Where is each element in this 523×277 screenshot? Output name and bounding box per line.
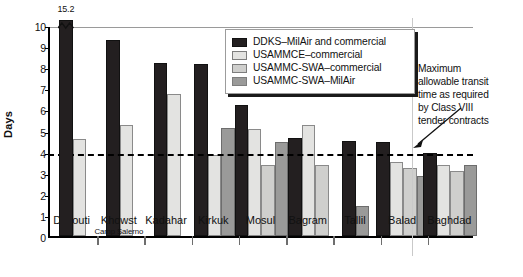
x-axis-label-kadahar: Kadahar — [145, 214, 187, 226]
x-axis-separator-tick — [144, 236, 146, 245]
y-axis-tick-label: 0 — [30, 233, 46, 244]
legend-item: USAMMC-SWA–MilAir — [232, 75, 407, 87]
legend-swatch-icon — [232, 77, 247, 86]
threshold-annotation: Maximum allowable transit time as requir… — [418, 62, 518, 127]
x-axis-label-text: Baghdad — [427, 214, 471, 226]
y-axis-tick-label: 1 — [30, 212, 46, 223]
legend-item: DDKS–MilAir and commercial — [232, 36, 407, 48]
x-axis-label-tallil: Tallil — [344, 214, 365, 226]
bar: 15.2 — [59, 20, 73, 236]
annotation-line: allowable transit — [418, 75, 518, 88]
x-axis-label-khowst: KhowstCamp Salerno — [95, 214, 144, 236]
x-axis-label-balad: Balad — [388, 214, 416, 226]
x-axis-label-text: Mosul — [246, 214, 275, 226]
x-axis-separator-tick — [239, 236, 241, 245]
bar — [450, 171, 464, 236]
legend-label: DDKS–MilAir and commercial — [253, 36, 386, 48]
bar-value-label: 15.2 — [58, 4, 75, 14]
legend-label: USAMMC-SWA–MilAir — [253, 75, 355, 87]
y-axis-tick-label: 2 — [30, 191, 46, 202]
x-axis-separator-tick — [381, 236, 383, 245]
x-axis-separator-tick — [286, 236, 288, 245]
x-axis-sublabel-text: Camp Salerno — [95, 227, 144, 236]
annotation-line: tender contracts — [418, 114, 518, 127]
x-axis-label-text: Balad — [388, 214, 416, 226]
x-axis-label-bagram: Bagram — [288, 214, 327, 226]
bar — [106, 40, 120, 236]
annotation-line: Maximum — [418, 62, 518, 75]
legend-item: USAMMC-SWA–commercial — [232, 62, 407, 74]
y-axis-tick-label: 7 — [30, 85, 46, 96]
y-axis-tick-label: 6 — [30, 106, 46, 117]
y-axis-tick-label: 10 — [30, 22, 46, 33]
bar — [154, 63, 168, 236]
x-axis-label-text: Tallil — [344, 214, 365, 226]
annotation-line: by Class VIII — [418, 101, 518, 114]
legend-item: USAMMCE–commercial — [232, 49, 407, 61]
legend-swatch-icon — [232, 38, 247, 47]
bar-group — [97, 27, 144, 236]
y-axis-tick-label: 3 — [30, 169, 46, 180]
legend-swatch-icon — [232, 64, 247, 73]
legend-label: USAMMCE–commercial — [253, 49, 362, 61]
x-axis-separator-tick — [428, 236, 430, 245]
axis-break-icon — [58, 17, 74, 26]
x-axis-label-kirkuk: Kirkuk — [198, 214, 229, 226]
y-axis-tick-label: 4 — [30, 148, 46, 159]
bar-group: 15.2 — [50, 27, 97, 236]
x-axis-label-baghdad: Baghdad — [427, 214, 471, 226]
y-axis-label: Days — [2, 111, 14, 138]
x-axis-label-text: Khowst — [101, 214, 137, 226]
x-axis-label-text: Bagram — [288, 214, 327, 226]
x-axis-separator-tick — [97, 236, 99, 245]
bar-chart: Days 01234567891015.2 DDKS–MilAir and co… — [0, 0, 523, 277]
chart-legend: DDKS–MilAir and commercial USAMMCE–comme… — [225, 29, 415, 94]
bar — [194, 64, 208, 236]
legend-swatch-icon — [232, 51, 247, 60]
x-axis-separator-tick — [333, 236, 335, 245]
x-axis-label-mosul: Mosul — [246, 214, 275, 226]
x-axis-label-text: Kirkuk — [198, 214, 229, 226]
bar-group — [144, 27, 191, 236]
x-axis-separator-tick — [192, 236, 194, 245]
y-axis-tick-label: 5 — [30, 127, 46, 138]
y-axis-tick-label: 9 — [30, 43, 46, 54]
x-axis-label-text: Kadahar — [145, 214, 187, 226]
legend-label: USAMMC-SWA–commercial — [253, 62, 382, 74]
annotation-line: time as required — [418, 88, 518, 101]
y-axis-tick-label: 8 — [30, 64, 46, 75]
threshold-line — [48, 154, 473, 156]
